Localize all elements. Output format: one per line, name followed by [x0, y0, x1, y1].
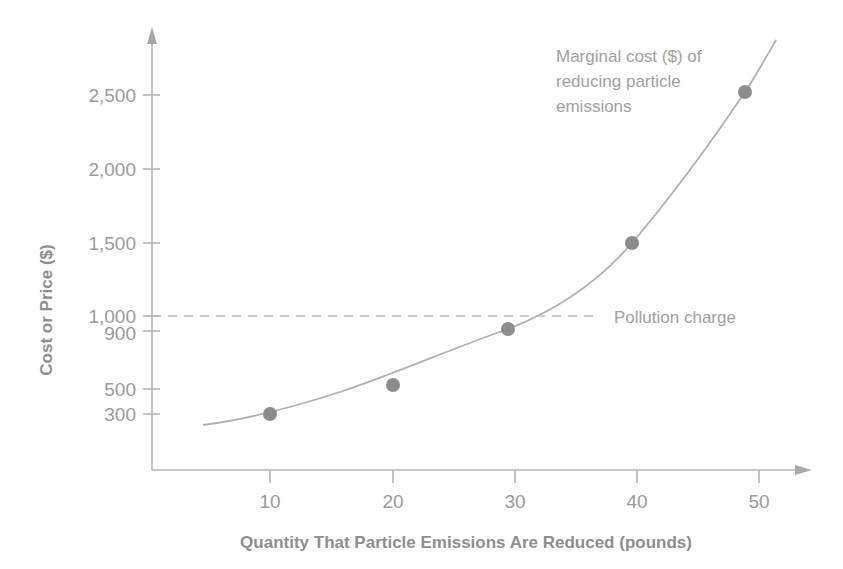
- x-tick-label-20: 20: [382, 491, 403, 512]
- data-point-50: [738, 85, 752, 99]
- y-axis: [147, 27, 157, 470]
- x-tick-marks: [270, 470, 759, 483]
- data-point-20: [386, 378, 400, 392]
- x-tick-label-30: 30: [504, 491, 525, 512]
- marginal-cost-curve: [203, 40, 776, 425]
- curve-annotation: Marginal cost ($) of reducing particle e…: [556, 47, 702, 116]
- chart-container: 2,500 2,000 1,500 1,000 900 500 300 10 2…: [0, 0, 843, 569]
- data-point-40: [625, 236, 639, 250]
- x-axis: [152, 465, 812, 475]
- y-axis-title: Cost or Price ($): [37, 244, 56, 375]
- data-point-markers: [263, 85, 752, 421]
- y-tick-label-2500: 2,500: [88, 85, 136, 106]
- x-axis-arrow-icon: [795, 465, 812, 475]
- y-tick-labels: 2,500 2,000 1,500 1,000 900 500 300: [88, 85, 136, 425]
- y-tick-label-300: 300: [104, 404, 136, 425]
- data-point-10: [263, 407, 277, 421]
- y-tick-label-500: 500: [104, 379, 136, 400]
- x-tick-label-50: 50: [748, 491, 769, 512]
- y-tick-label-2000: 2,000: [88, 159, 136, 180]
- y-tick-label-900: 900: [104, 323, 136, 344]
- x-axis-title: Quantity That Particle Emissions Are Red…: [240, 533, 692, 552]
- x-tick-label-10: 10: [259, 491, 280, 512]
- marginal-cost-line-chart: 2,500 2,000 1,500 1,000 900 500 300 10 2…: [0, 0, 843, 569]
- pollution-charge-label: Pollution charge: [614, 308, 736, 327]
- y-tick-label-1500: 1,500: [88, 233, 136, 254]
- x-tick-labels: 10 20 30 40 50: [259, 491, 769, 512]
- curve-annotation-line-1: Marginal cost ($) of: [556, 47, 702, 66]
- y-axis-arrow-icon: [147, 27, 157, 44]
- curve-annotation-line-3: emissions: [556, 97, 632, 116]
- data-point-30: [501, 322, 515, 336]
- curve-annotation-line-2: reducing particle: [556, 72, 681, 91]
- x-tick-label-40: 40: [626, 491, 647, 512]
